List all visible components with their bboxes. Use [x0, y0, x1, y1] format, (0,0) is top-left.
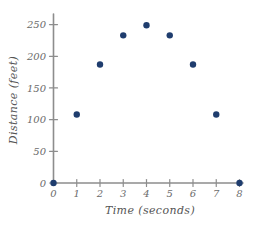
x-tick-label: 0 [50, 188, 57, 199]
x-tick-label: 6 [190, 188, 197, 199]
scatter-chart: 050100150200250 012345678 Time (seconds)… [0, 0, 261, 228]
axes-group [54, 14, 244, 183]
x-axis-title: Time (seconds) [105, 204, 195, 217]
x-tick-label: 5 [167, 188, 173, 199]
data-point [190, 61, 196, 67]
chart-plot-area: 050100150200250 012345678 Time (seconds)… [0, 0, 261, 228]
data-point [50, 180, 56, 186]
y-tick-label: 200 [26, 51, 47, 62]
data-point [120, 32, 126, 38]
y-axis-title: Distance (feet) [7, 56, 20, 145]
y-tick-label: 150 [27, 83, 47, 94]
y-tick-label: 250 [26, 19, 47, 30]
x-tick-label: 8 [236, 188, 242, 199]
data-point [167, 32, 173, 38]
x-tick-label: 1 [74, 188, 80, 199]
y-tick-label: 100 [27, 114, 47, 125]
data-points-group [50, 22, 242, 186]
y-tick-label: 50 [33, 146, 46, 157]
x-tick-label: 4 [142, 188, 149, 199]
x-tick-label: 3 [120, 188, 126, 199]
data-point [213, 111, 219, 117]
y-tick-label: 0 [40, 178, 47, 189]
data-point [143, 22, 149, 28]
data-point [236, 180, 242, 186]
data-point [74, 111, 80, 117]
data-point [97, 61, 103, 67]
x-tick-label: 2 [96, 188, 103, 199]
x-tick-label: 7 [213, 188, 220, 199]
